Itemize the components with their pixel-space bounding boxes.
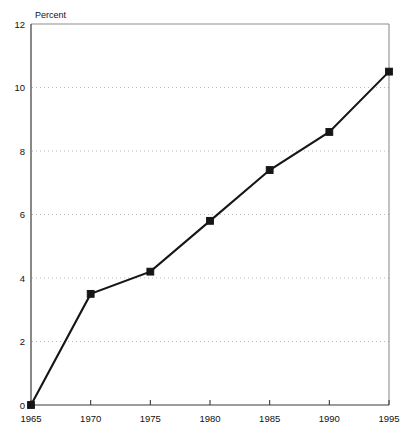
x-tick-label-1970: 1970 (80, 413, 101, 424)
x-tick-label-1990: 1990 (319, 413, 340, 424)
y-tick-label-0: 0 (20, 400, 25, 411)
data-point-1970 (87, 290, 94, 297)
x-tick-label-1975: 1975 (140, 413, 161, 424)
y-tick-label-2: 2 (20, 336, 25, 347)
x-tick-label-1995: 1995 (378, 413, 399, 424)
chart-container: 024681012 1965197019751980198519901995 P… (0, 0, 413, 433)
y-tick-label-8: 8 (20, 146, 25, 157)
line-chart: 024681012 1965197019751980198519901995 P… (0, 0, 413, 433)
data-point-1985 (266, 167, 273, 174)
data-point-1980 (207, 217, 214, 224)
y-tick-label-12: 12 (14, 19, 25, 30)
y-tick-label-4: 4 (20, 273, 25, 284)
x-tick-label-1985: 1985 (259, 413, 280, 424)
x-tick-label-1965: 1965 (20, 413, 41, 424)
y-axis-title: Percent (35, 10, 67, 20)
y-tick-label-10: 10 (14, 82, 25, 93)
x-tick-label-1980: 1980 (199, 413, 220, 424)
data-point-1995 (386, 68, 393, 75)
data-point-1965 (28, 402, 35, 409)
data-point-1990 (326, 129, 333, 136)
y-tick-label-6: 6 (20, 209, 25, 220)
data-point-1975 (147, 268, 154, 275)
chart-background (0, 0, 413, 433)
